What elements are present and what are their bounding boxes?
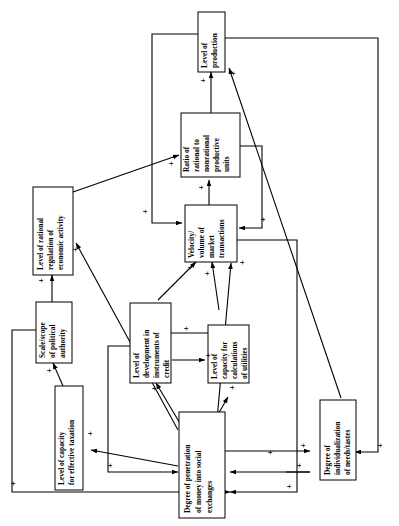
node-individualization-label-0: Degree of [323,444,332,475]
node-ratio-label-3: productive [212,137,221,172]
edge-regulation-ratio [73,155,179,192]
node-velocity-label-1: volume of [197,226,206,258]
polarity-sign: + [85,431,95,436]
edge-taxation-authority [53,363,63,386]
nodes-layer: Level of production Ratio of rational to… [33,12,356,518]
polarity-sign: + [298,443,308,448]
polarity-sign: + [149,386,159,391]
node-production[interactable]: Level of production [198,12,225,72]
polarity-sign: + [237,260,247,265]
polarity-sign: + [375,443,385,448]
node-utilities-label-1: capacity for [220,341,229,379]
node-individualization-label-2: of needs/tastes [343,430,352,475]
node-credit-label-1: development in [142,330,151,378]
node-authority-label-1: of political [48,325,57,358]
node-taxation[interactable]: Level of capacity for effective taxation [55,386,83,490]
node-credit[interactable]: Level of development in instruments of c… [130,303,171,383]
edge-penetration-credit [156,383,181,425]
polarity-sign: + [265,450,275,455]
polarity-sign: + [284,484,294,489]
node-authority[interactable]: Scale/scope of political authority [36,302,72,363]
polarity-sign: + [140,209,150,214]
polarity-sign: + [166,161,176,166]
node-individualization-label-1: individualization [333,422,342,475]
node-production-label-1: production [210,33,219,68]
polarity-sign: + [70,247,80,252]
node-ratio-label-4: units [222,156,231,172]
node-authority-label-0: Scale/scope [38,322,47,358]
polarity-sign: + [294,463,304,468]
polarity-sign: + [105,463,115,468]
node-penetration-label-0: Degree of penetration [183,445,192,513]
node-credit-label-2: instruments of [152,332,161,378]
polarity-sign: + [202,271,212,276]
node-ratio-label-0: Ratio of [182,146,191,172]
node-credit-label-3: credit [162,359,171,378]
polarity-sign: + [198,78,208,83]
polarity-sign: + [8,481,18,486]
polarity-sign: + [44,368,54,373]
node-credit-label-0: Level of [132,352,141,378]
node-regulation-label-1: regulation of [46,229,55,270]
polarity-sign: + [258,217,268,222]
polarity-sign: + [203,353,213,358]
node-ratio-label-1: rational to [192,139,201,172]
node-velocity-label-2: market [207,234,216,258]
node-regulation-label-2: economic activity [56,215,65,270]
polarity-sign: + [227,385,237,390]
polarity-sign: + [196,185,206,190]
edge-production-individualization [225,38,378,452]
node-ratio-label-2: nonrational [202,135,211,172]
polarity-sign: + [185,265,195,270]
node-velocity[interactable]: Velocity/ volume of market transactions [185,205,237,262]
node-authority-label-2: authority [58,328,67,358]
node-utilities-label-2: calculations [230,342,239,379]
node-individualization[interactable]: Degree of individualization of needs/tas… [320,400,356,480]
polarity-sign: + [181,326,191,331]
node-taxation-label-1: for effective taxation [67,420,76,485]
diagram-canvas: Level of production Ratio of rational to… [0,0,399,526]
node-velocity-label-0: Velocity/ [187,230,196,258]
node-production-label-0: Level of [200,42,209,68]
node-penetration-label-1: of money into social [194,450,203,513]
node-utilities-label-3: of utilities [240,347,249,379]
node-regulation-label-0: Level of rational [36,218,45,270]
edge-ratio-velocity [239,146,262,228]
causal-loop-diagram: Level of production Ratio of rational to… [0,0,399,526]
node-penetration-label-2: exchanges [205,481,214,513]
edge-utilities-velocity [212,262,219,310]
node-ratio[interactable]: Ratio of rational to nonrational product… [181,113,240,177]
node-regulation[interactable]: Level of rational regulation of economic… [33,187,73,275]
node-utilities[interactable]: Level of capacity for calculations of ut… [208,325,249,383]
node-penetration[interactable]: Degree of penetration of money into soci… [179,412,225,518]
polarity-sign: + [36,278,46,283]
node-velocity-label-3: transactions [217,219,226,258]
polarity-sign: + [228,71,238,76]
node-taxation-label-0: Level of capacity [57,431,66,485]
